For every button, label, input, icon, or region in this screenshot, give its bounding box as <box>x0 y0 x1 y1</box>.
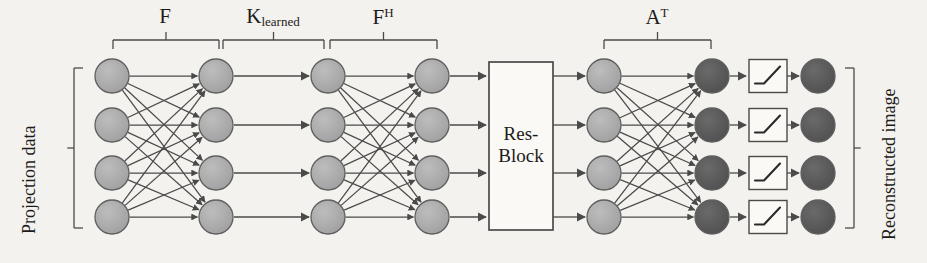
node-input-layer-1 <box>95 59 129 93</box>
brace-layer <box>67 32 861 228</box>
res-block-label: Res- Block <box>489 123 553 167</box>
node-inverse-fourier-layer-4 <box>415 200 449 234</box>
stage-label-a-transpose: AT <box>645 6 668 28</box>
relu-activation-box <box>749 109 787 142</box>
node-output-layer-1 <box>801 59 835 93</box>
superscript: T <box>661 5 669 20</box>
brace-K_learned <box>223 32 324 49</box>
right-brace <box>845 68 861 228</box>
left-axis-label-projection-data: Projection data <box>20 126 38 234</box>
res-block-label-line2: Block <box>489 145 553 167</box>
node-backprojection-layer-1 <box>695 59 729 93</box>
node-input-layer-4 <box>95 200 129 234</box>
node-output-layer-4 <box>801 200 835 234</box>
node-output-layer-3 <box>801 156 835 190</box>
node-backprojection-layer-4 <box>695 200 729 234</box>
node-backprojection-layer-2 <box>695 108 729 142</box>
node-input-layer-3 <box>95 156 129 190</box>
node-resblock-output-layer-4 <box>587 200 621 234</box>
brace-FH <box>330 32 437 49</box>
node-filtered-layer-2 <box>311 108 345 142</box>
node-filtered-layer-1 <box>311 59 345 93</box>
node-inverse-fourier-layer-2 <box>415 108 449 142</box>
node-inverse-fourier-layer-3 <box>415 156 449 190</box>
node-fourier-layer-1 <box>199 59 233 93</box>
superscript: H <box>384 5 393 20</box>
brace-F <box>113 32 219 49</box>
node-layer <box>95 59 835 234</box>
right-axis-label-reconstructed-image: Reconstructed image <box>880 89 898 240</box>
brace-AT <box>604 32 711 49</box>
node-resblock-output-layer-3 <box>587 156 621 190</box>
stage-label-k-learned: Klearned <box>246 6 299 28</box>
subscript: learned <box>261 14 299 29</box>
network-architecture-figure: F Klearned FH AT Res- Block Projection d… <box>0 0 927 263</box>
left-brace <box>67 68 83 228</box>
edge-layer <box>122 76 799 217</box>
relu-activation-box <box>749 157 787 190</box>
relu-activation-box <box>749 60 787 93</box>
node-fourier-layer-2 <box>199 108 233 142</box>
relu-activation-box <box>749 201 787 234</box>
node-resblock-output-layer-2 <box>587 108 621 142</box>
node-fourier-layer-3 <box>199 156 233 190</box>
node-filtered-layer-4 <box>311 200 345 234</box>
node-inverse-fourier-layer-1 <box>415 59 449 93</box>
node-backprojection-layer-3 <box>695 156 729 190</box>
node-fourier-layer-4 <box>199 200 233 234</box>
stage-label-f-hermitian: FH <box>372 6 393 28</box>
res-block-label-line1: Res- <box>489 123 553 145</box>
node-output-layer-2 <box>801 108 835 142</box>
node-input-layer-2 <box>95 108 129 142</box>
node-resblock-output-layer-1 <box>587 59 621 93</box>
node-filtered-layer-3 <box>311 156 345 190</box>
diagram-canvas <box>0 0 927 263</box>
stage-label-F: F <box>159 6 171 27</box>
